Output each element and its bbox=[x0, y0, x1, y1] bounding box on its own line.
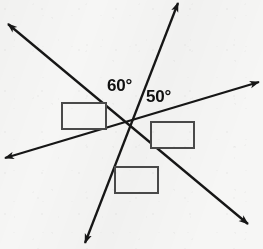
angle-label-50: 50° bbox=[146, 88, 171, 105]
answer-box-left[interactable] bbox=[62, 103, 106, 129]
answer-box-bottom[interactable] bbox=[115, 167, 158, 193]
angle-diagram-figure: 60° 50° bbox=[0, 0, 263, 249]
answer-box-right[interactable] bbox=[151, 122, 194, 148]
angle-label-60: 60° bbox=[107, 77, 132, 94]
diagram-canvas bbox=[0, 0, 263, 249]
